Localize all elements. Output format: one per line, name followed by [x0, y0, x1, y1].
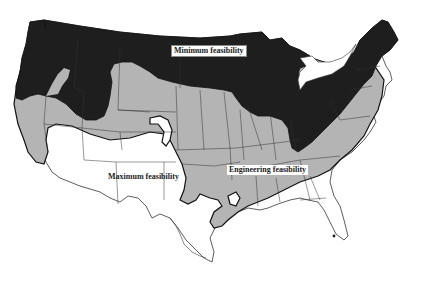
map-canvas — [0, 0, 421, 282]
lake-okeechobee — [333, 235, 336, 238]
label-minimum-feasibility: Minimum feasibility — [171, 45, 247, 57]
label-engineering-feasibility: Engineering feasibility — [227, 165, 308, 175]
us-feasibility-map: Minimum feasibility Maximum feasibility … — [0, 0, 421, 282]
label-maximum-feasibility: Maximum feasibility — [106, 172, 181, 182]
